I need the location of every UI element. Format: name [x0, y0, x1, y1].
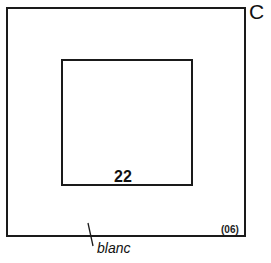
leader-line: [0, 0, 271, 263]
margin-annotation: blanc: [97, 241, 130, 255]
